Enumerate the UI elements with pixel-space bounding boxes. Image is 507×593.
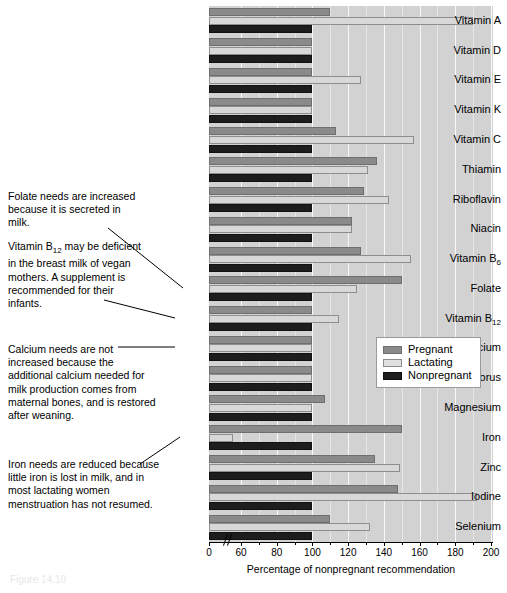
bar-lactating [209, 404, 312, 412]
bar-pregnant [209, 68, 312, 76]
x-tick-minor [259, 542, 260, 545]
bar-nonpregnant [209, 502, 312, 510]
annotation-b12-subscript: 12 [53, 246, 62, 255]
legend-swatch-lactating [383, 359, 402, 367]
bar-nonpregnant [209, 293, 312, 301]
bar-nonpregnant [209, 442, 312, 450]
category-label-vitamin-d: Vitamin D [302, 45, 507, 56]
category-label-thiamin: Thiamin [302, 164, 507, 175]
legend-label-nonpregnant: Nonpregnant [408, 370, 472, 381]
annotation-folate: Folate needs are increased because it is… [8, 190, 143, 230]
x-tick-label: 120 [340, 547, 357, 558]
bar-nonpregnant [209, 204, 312, 212]
bar-lactating [209, 434, 233, 442]
category-label-riboflavin: Riboflavin [302, 194, 507, 205]
category-label-vitamin-b6: Vitamin B6 [302, 253, 507, 268]
bar-pregnant [209, 336, 312, 344]
bar-pregnant [209, 98, 312, 106]
bar-nonpregnant [209, 472, 312, 480]
x-tick-minor [366, 542, 367, 545]
legend-label-pregnant: Pregnant [408, 344, 453, 355]
category-label-niacin: Niacin [302, 223, 507, 234]
x-tick-label: 0 [206, 547, 212, 558]
legend-swatch-pregnant [383, 346, 402, 354]
category-label-zinc: Zinc [302, 462, 507, 473]
bar-nonpregnant [209, 145, 312, 153]
annotation-b12-pre: Vitamin B [8, 240, 53, 252]
bar-pregnant [209, 306, 312, 314]
legend-item-nonpregnant: Nonpregnant [383, 369, 472, 382]
category-label-vitamin-b12: Vitamin B12 [302, 313, 507, 328]
x-tick-label: 60 [235, 547, 246, 558]
x-tick-minor [473, 542, 474, 545]
bar-nonpregnant [209, 25, 312, 33]
chart-legend: Pregnant Lactating Nonpregnant [376, 337, 481, 388]
x-axis-line [209, 542, 493, 543]
x-tick [420, 542, 421, 546]
bar-pregnant [209, 366, 312, 374]
category-label-magnesium: Magnesium [302, 402, 507, 413]
category-label-iodine: Iodine [302, 491, 507, 502]
bar-nonpregnant [209, 264, 312, 272]
bar-nonpregnant [209, 353, 312, 361]
annotation-vitamin-b12: Vitamin B12 may be deficient in the brea… [8, 240, 143, 310]
annotation-calcium: Calcium needs are not increased because … [8, 343, 158, 422]
x-tick-label: 100 [304, 547, 321, 558]
bar-nonpregnant [209, 115, 312, 123]
legend-item-lactating: Lactating [383, 356, 472, 369]
bar-lactating [209, 344, 312, 352]
bar-nonpregnant [209, 323, 312, 331]
category-label-iron: Iron [302, 432, 507, 443]
category-label-vitamin-c: Vitamin C [302, 134, 507, 145]
bar-nonpregnant [209, 174, 312, 182]
x-tick [348, 542, 349, 546]
bar-nonpregnant [209, 85, 312, 93]
x-tick-label: 80 [271, 547, 282, 558]
x-tick [491, 542, 492, 546]
x-tick [384, 542, 385, 546]
x-tick [455, 542, 456, 546]
bar-lactating [209, 106, 312, 114]
x-tick-label: 160 [411, 547, 428, 558]
x-axis-title: Percentage of nonpregnant recommendation [209, 563, 493, 575]
x-tick-minor [330, 542, 331, 545]
axis-break-icon [222, 534, 236, 546]
bar-lactating [209, 374, 312, 382]
bar-nonpregnant [209, 234, 312, 242]
x-tick-minor [437, 542, 438, 545]
x-tick-label: 140 [376, 547, 393, 558]
category-label-selenium: Selenium [302, 521, 507, 532]
legend-swatch-nonpregnant [383, 372, 402, 380]
category-label-vitamin-a: Vitamin A [302, 15, 507, 26]
x-tick [312, 542, 313, 546]
x-tick-label: 180 [447, 547, 464, 558]
legend-label-lactating: Lactating [408, 357, 453, 368]
x-tick [209, 542, 210, 546]
bar-nonpregnant [209, 383, 312, 391]
annotation-iron: Iron needs are reduced because little ir… [8, 458, 168, 511]
bar-nonpregnant [209, 413, 312, 421]
x-tick-minor [402, 542, 403, 545]
x-tick-minor [295, 542, 296, 545]
figure-caption: Figure 14.10 [10, 574, 66, 585]
category-label-vitamin-e: Vitamin E [302, 74, 507, 85]
x-tick [277, 542, 278, 546]
bar-pregnant [209, 38, 312, 46]
bar-lactating [209, 47, 312, 55]
category-label-folate: Folate [302, 283, 507, 294]
x-tick-label: 200 [483, 547, 500, 558]
x-tick [241, 542, 242, 546]
category-label-vitamin-k: Vitamin K [302, 104, 507, 115]
legend-item-pregnant: Pregnant [383, 343, 472, 356]
bar-nonpregnant [209, 55, 312, 63]
